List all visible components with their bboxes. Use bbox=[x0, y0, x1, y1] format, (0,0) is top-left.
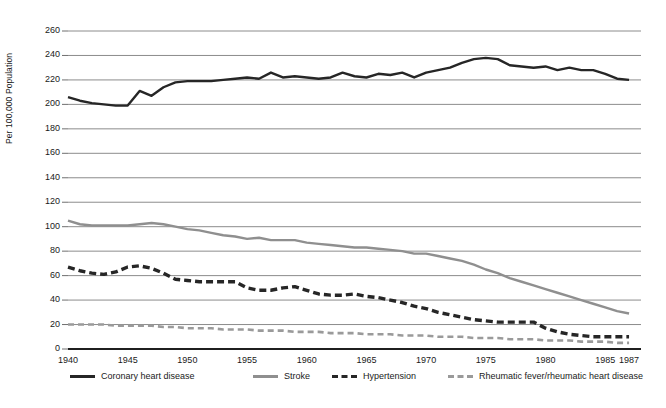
y-tick-label: 160 bbox=[34, 147, 60, 157]
legend-item[interactable]: Hypertension bbox=[332, 371, 416, 381]
y-tick-label: 260 bbox=[34, 25, 60, 35]
x-tick-label: 1945 bbox=[108, 355, 148, 365]
legend-item[interactable]: Coronary heart disease bbox=[70, 371, 195, 381]
legend-label: Hypertension bbox=[363, 371, 416, 381]
x-tick-label: 1980 bbox=[526, 355, 566, 365]
legend-item[interactable]: Stroke bbox=[253, 371, 310, 381]
y-tick-label: 0 bbox=[34, 343, 60, 353]
chart-legend: Coronary heart diseaseStrokeHypertension… bbox=[0, 371, 666, 391]
y-tick-label: 180 bbox=[34, 123, 60, 133]
x-tick-label: 1950 bbox=[167, 355, 207, 365]
y-tick-label: 100 bbox=[34, 221, 60, 231]
legend-swatch-icon bbox=[253, 375, 278, 378]
y-axis-label: Per 100,000 Population bbox=[4, 14, 14, 144]
legend-swatch-icon bbox=[70, 375, 95, 378]
chart-figure: Per 100,000 Population 02040608010012014… bbox=[0, 0, 666, 408]
gridlines bbox=[68, 31, 641, 349]
x-tick-label: 1975 bbox=[466, 355, 506, 365]
x-tick-label: 1960 bbox=[287, 355, 327, 365]
y-tick-label: 60 bbox=[34, 270, 60, 280]
y-tick-label: 40 bbox=[34, 294, 60, 304]
legend-label: Rheumatic fever/rheumatic heart disease bbox=[479, 371, 643, 381]
y-tick-label: 80 bbox=[34, 245, 60, 255]
y-tick-label: 20 bbox=[34, 319, 60, 329]
legend-swatch-icon bbox=[448, 375, 473, 378]
legend-label: Coronary heart disease bbox=[101, 371, 195, 381]
legend-item[interactable]: Rheumatic fever/rheumatic heart disease bbox=[448, 371, 643, 381]
x-tick-label: 1970 bbox=[406, 355, 446, 365]
y-tick-label: 220 bbox=[34, 74, 60, 84]
axis-lines bbox=[62, 31, 68, 349]
legend-swatch-icon bbox=[332, 375, 357, 378]
y-tick-label: 140 bbox=[34, 172, 60, 182]
x-tick-label: 1955 bbox=[227, 355, 267, 365]
plot-area bbox=[0, 0, 666, 408]
x-tick-label: 1965 bbox=[346, 355, 386, 365]
y-tick-label: 240 bbox=[34, 49, 60, 59]
x-tick-label: 1987 bbox=[609, 355, 649, 365]
x-tick-label: 1940 bbox=[48, 355, 88, 365]
legend-label: Stroke bbox=[284, 371, 310, 381]
y-tick-label: 120 bbox=[34, 196, 60, 206]
series-line bbox=[68, 58, 629, 106]
y-tick-label: 200 bbox=[34, 98, 60, 108]
